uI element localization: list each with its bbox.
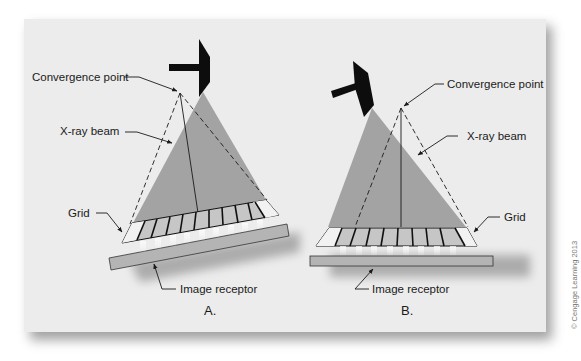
label-xray-beam-b: X-ray beam: [467, 130, 526, 142]
label-image-receptor-a: Image receptor: [180, 283, 258, 295]
label-grid-a: Grid: [68, 207, 90, 219]
copyright-notice: © Cengage Learning 2013: [570, 241, 579, 329]
label-xray-beam-a: X-ray beam: [60, 125, 119, 137]
image-receptor-b: [310, 256, 493, 266]
grid-angulation-diagram: Convergence point X-ray beam Grid Image …: [0, 0, 581, 361]
label-image-receptor-b: Image receptor: [372, 283, 450, 295]
caption-b: B.: [401, 303, 413, 318]
label-grid-b: Grid: [504, 211, 526, 223]
diagram-panel: [24, 19, 546, 332]
label-convergence-point-b: Convergence point: [447, 78, 544, 90]
caption-a: A.: [204, 303, 216, 318]
label-convergence-point-a: Convergence point: [32, 71, 129, 83]
